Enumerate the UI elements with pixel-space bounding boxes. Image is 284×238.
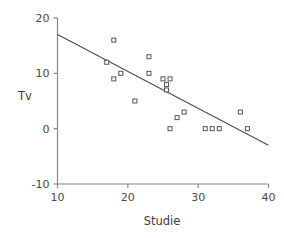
data-point: [112, 77, 116, 81]
data-point: [112, 38, 116, 42]
axes: [58, 18, 269, 184]
y-axis-title: Tv: [17, 89, 32, 103]
data-point: [238, 110, 242, 114]
data-point: [175, 116, 179, 120]
data-point: [165, 88, 169, 92]
data-points: [105, 38, 250, 131]
data-point: [147, 55, 151, 59]
y-tick-label: 10: [36, 67, 50, 80]
data-point: [105, 60, 109, 64]
regression-line: [58, 35, 269, 146]
y-tick-label: 0: [43, 123, 50, 136]
trendline: [58, 35, 269, 146]
plot-area: -100102010203040 Tv Studie: [0, 0, 284, 238]
y-tick-label: -10: [32, 178, 50, 191]
x-tick-label: 30: [191, 191, 205, 204]
data-point: [203, 127, 207, 131]
tick-marks: [54, 18, 269, 188]
data-point: [245, 127, 249, 131]
x-axis-title: Studie: [144, 214, 181, 228]
data-point: [168, 77, 172, 81]
x-tick-label: 20: [121, 191, 135, 204]
data-point: [161, 77, 165, 81]
data-point: [165, 82, 169, 86]
x-tick-label: 10: [51, 191, 65, 204]
data-point: [210, 127, 214, 131]
y-tick-label: 20: [36, 12, 50, 25]
data-point: [119, 71, 123, 75]
tick-labels: -100102010203040: [32, 12, 276, 204]
data-point: [217, 127, 221, 131]
x-tick-label: 40: [262, 191, 276, 204]
scatter-chart: -100102010203040 Tv Studie: [0, 0, 284, 238]
data-point: [133, 99, 137, 103]
data-point: [147, 71, 151, 75]
data-point: [168, 127, 172, 131]
data-point: [182, 110, 186, 114]
